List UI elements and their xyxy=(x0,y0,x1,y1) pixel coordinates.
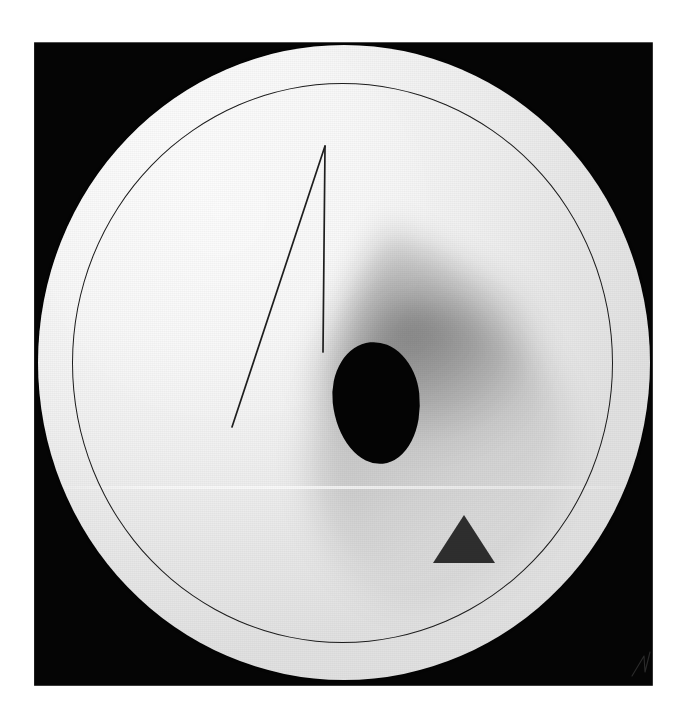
dark-triangle-shape xyxy=(433,515,495,563)
black-square-plate xyxy=(34,42,653,686)
black-ellipse-shape xyxy=(327,338,426,468)
signature-path xyxy=(632,652,650,676)
cast-shadow-primary xyxy=(228,225,650,680)
signature-scratch-mark xyxy=(628,646,653,680)
artwork-canvas: Abstract geometric composition on white … xyxy=(0,0,687,719)
white-circular-panel xyxy=(38,45,650,680)
artwork-medium: Photograph of a circular white panel mou… xyxy=(0,0,1,1)
paper-crease-line xyxy=(38,486,650,489)
artwork-title: Abstract geometric composition on white … xyxy=(0,0,1,1)
